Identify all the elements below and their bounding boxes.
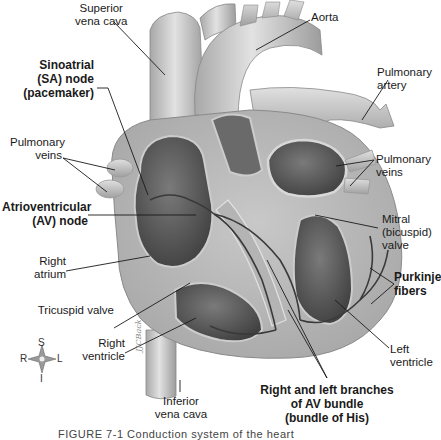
label-line: Pulmonary (10, 136, 62, 149)
label-line: Inferior (152, 395, 210, 408)
label-line: veins (10, 149, 62, 162)
label-line: (AV) node (2, 214, 88, 228)
label-line: Sinoatrial (18, 58, 94, 72)
label-left-ventricle: Left ventricle (390, 343, 433, 369)
label-line: fibers (394, 284, 441, 298)
right-atrium-chamber (135, 136, 213, 267)
compass-rose (28, 345, 56, 373)
artist-signature: JJCBack (134, 319, 143, 352)
label-line: Right (70, 337, 125, 350)
pulmonary-vein-left-upper (107, 159, 133, 177)
pulmonary-vein-left-lower (96, 180, 124, 198)
compass-inferior: I (40, 373, 43, 384)
label-sa-node: Sinoatrial (SA) node (pacemaker) (18, 58, 94, 100)
label-line: vena cava (152, 408, 210, 421)
left-atrium-chamber (268, 140, 346, 197)
label-line: Aorta (311, 11, 339, 24)
label-pulmonary-artery: Pulmonary artery (377, 66, 432, 92)
label-av-node: Atrioventricular (AV) node (2, 200, 88, 228)
label-line: Right (20, 255, 66, 268)
compass-left: L (57, 353, 63, 364)
label-line: Pulmonary (377, 66, 432, 79)
label-superior-vena-cava: Superior vena cava (75, 2, 127, 28)
label-line: Superior (75, 2, 127, 15)
label-av-bundle: Right and left branches of AV bundle (bu… (252, 383, 402, 425)
label-line: Atrioventricular (2, 200, 88, 214)
label-line: atrium (20, 268, 66, 281)
label-right-ventricle: Right ventricle (70, 337, 125, 363)
label-aorta: Aorta (311, 11, 339, 24)
label-line: of AV bundle (252, 397, 402, 411)
label-right-atrium: Right atrium (20, 255, 66, 281)
label-pulmonary-veins-right: Pulmonary veins (376, 153, 431, 179)
compass-right: R (20, 353, 27, 364)
label-line: vena cava (75, 15, 127, 28)
figure-caption: FIGURE 7-1 Conduction system of the hear… (58, 428, 294, 440)
label-line: Mitral (382, 213, 432, 226)
label-line: (pacemaker) (18, 86, 94, 100)
label-line: ventricle (390, 356, 433, 369)
label-line: (bundle of His) (252, 411, 402, 425)
label-mitral-valve: Mitral (bicuspid) valve (382, 213, 432, 252)
label-line: (SA) node (18, 72, 94, 86)
label-line: Left (390, 343, 433, 356)
label-purkinje-fibers: Purkinje fibers (394, 270, 441, 298)
label-line: Purkinje (394, 270, 441, 284)
label-inferior-vena-cava: Inferior vena cava (152, 395, 210, 421)
label-line: Right and left branches (252, 383, 402, 397)
label-line: artery (377, 79, 432, 92)
compass-superior: S (38, 337, 45, 348)
label-line: Pulmonary (376, 153, 431, 166)
label-line: Tricuspid valve (10, 304, 114, 317)
label-line: veins (376, 166, 431, 179)
label-tricuspid-valve: Tricuspid valve (10, 304, 114, 317)
label-line: valve (382, 239, 432, 252)
label-line: (bicuspid) (382, 226, 432, 239)
label-line: ventricle (70, 350, 125, 363)
label-pulmonary-veins-left: Pulmonary veins (10, 136, 62, 162)
